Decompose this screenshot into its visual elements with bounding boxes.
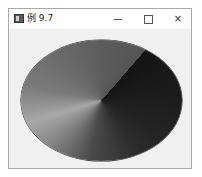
close-icon: ×	[174, 13, 182, 24]
minimize-button[interactable]	[104, 9, 132, 29]
app-window: 例 9.7 ×	[8, 8, 192, 169]
minimize-icon	[114, 19, 122, 20]
maximize-icon	[144, 15, 153, 24]
title-bar[interactable]: 例 9.7 ×	[9, 9, 191, 29]
app-icon[interactable]	[14, 14, 24, 23]
window-title: 例 9.7	[27, 12, 53, 25]
conical-gradient-ellipse	[21, 40, 182, 161]
maximize-button[interactable]	[134, 9, 162, 29]
client-area	[9, 29, 191, 168]
close-button[interactable]: ×	[164, 9, 192, 29]
